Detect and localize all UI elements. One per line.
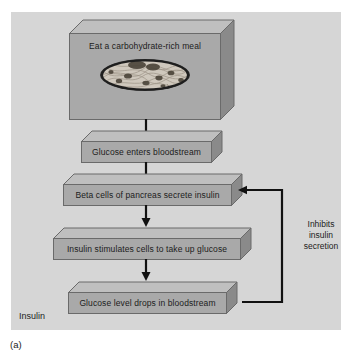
box-side-face [220, 20, 234, 120]
feedback-label-line-1: Inhibits [290, 219, 352, 230]
flow-step-beta-cells: Beta cells of pancreas secrete insulin [63, 174, 242, 206]
flow-step-label: Glucose level drops in bloodstream [79, 299, 215, 308]
feedback-label-line-3: secretion [290, 241, 352, 252]
feedback-loop-arrow [236, 184, 294, 308]
flow-step-label: Beta cells of pancreas secrete insulin [75, 191, 219, 200]
panel-corner-label: Insulin [19, 311, 45, 321]
figure-caption: (a) [10, 339, 22, 350]
arrow-beta-cells-to-insulin-stimulates [140, 205, 152, 227]
insulin-regulation-figure: Eat a carbohydrate-rich meal [0, 0, 363, 359]
box-top-face [69, 20, 234, 34]
flow-step-insulin-stimulates: Insulin stimulates cells to take up gluc… [53, 228, 251, 260]
flow-step-meal: Eat a carbohydrate-rich meal [69, 20, 234, 120]
flow-step-label: Glucose enters bloodstream [92, 148, 201, 157]
box-side-face [211, 131, 222, 163]
box-front-face: Glucose level drops in bloodstream [68, 292, 227, 314]
plate-of-pasta-illustration [97, 56, 193, 94]
flow-step-label: Eat a carbohydrate-rich meal [89, 42, 201, 51]
feedback-loop-label: Inhibits insulin secretion [290, 219, 352, 252]
box-front-face: Insulin stimulates cells to take up gluc… [53, 238, 241, 260]
box-front-face: Eat a carbohydrate-rich meal [69, 33, 221, 120]
box-front-face: Beta cells of pancreas secrete insulin [63, 184, 232, 206]
flow-step-label: Insulin stimulates cells to take up gluc… [67, 245, 227, 254]
feedback-label-line-2: insulin [290, 230, 352, 241]
flow-step-glucose-enters: Glucose enters bloodstream [81, 131, 222, 163]
arrow-insulin-stimulates-to-glucose-drops [140, 259, 152, 281]
box-front-face: Glucose enters bloodstream [81, 141, 212, 163]
flow-step-glucose-drops: Glucose level drops in bloodstream [68, 282, 237, 314]
